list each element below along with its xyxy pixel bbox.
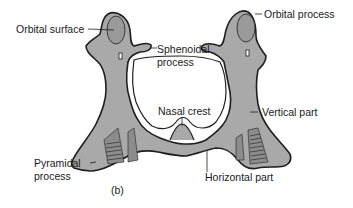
right-orbital-surface (237, 14, 255, 42)
label-sphenoidal-process-line2: process (157, 57, 194, 68)
label-sphenoidal-process-line1: Sphenoidal (157, 44, 210, 55)
left-foramen (119, 53, 122, 59)
palatine-bones-diagram: Orbital surface Sphenoidal process Orbit… (0, 0, 353, 208)
right-foramen (246, 50, 249, 56)
label-horizontal-part: Horizontal part (205, 172, 273, 183)
label-orbital-process: Orbital process (264, 9, 335, 20)
label-orbital-surface: Orbital surface (16, 24, 84, 35)
label-vertical-part: Vertical part (262, 107, 317, 118)
panel-label: (b) (111, 185, 124, 196)
label-pyramidal-process-line2: process (34, 171, 71, 182)
label-nasal-crest: Nasal crest (158, 106, 211, 117)
nasal-crest-shape (170, 124, 194, 140)
label-pyramidal-process-line1: Pyramidal (34, 158, 81, 169)
